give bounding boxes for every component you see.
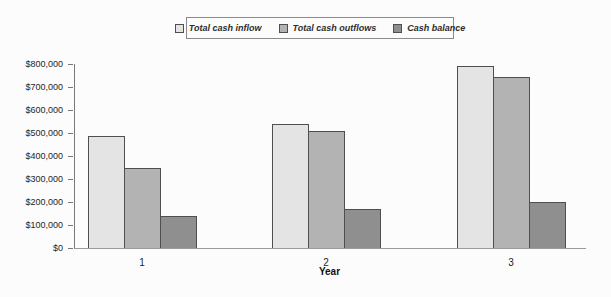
y-tick-mark (68, 225, 73, 226)
legend-item-total-cash-inflow: Total cash inflow (175, 23, 262, 33)
bar-cash-balance-year-3 (529, 202, 566, 248)
y-tick-label: $800,000 (25, 59, 63, 69)
bar-total-cash-inflow-year-1 (88, 136, 125, 248)
y-tick-label: $200,000 (25, 197, 63, 207)
y-tick-label: $0 (53, 243, 63, 253)
y-tick-label: $400,000 (25, 151, 63, 161)
y-tick-mark (68, 87, 73, 88)
legend-swatch-total-cash-inflow (175, 24, 184, 33)
bar-group-year-1: 1 (88, 136, 196, 248)
bar-total-cash-outflows-year-2 (308, 131, 345, 248)
legend-item-total-cash-outflows: Total cash outflows (279, 23, 377, 33)
plot-area: 123 (74, 64, 586, 249)
y-axis: $0$100,000$200,000$300,000$400,000$500,0… (0, 64, 74, 248)
bar-group-year-2: 2 (272, 124, 380, 248)
legend-label: Total cash outflows (293, 23, 377, 33)
y-tick-label: $300,000 (25, 174, 63, 184)
bar-group-year-3: 3 (457, 66, 565, 248)
y-tick-mark (68, 156, 73, 157)
y-tick-label: $500,000 (25, 128, 63, 138)
bar-total-cash-inflow-year-2 (272, 124, 309, 248)
y-tick-mark (68, 248, 73, 249)
legend-swatch-total-cash-outflows (279, 24, 288, 33)
bar-cash-balance-year-1 (160, 216, 197, 248)
legend-item-cash-balance: Cash balance (393, 23, 465, 33)
y-tick-mark (68, 133, 73, 134)
legend-label: Cash balance (407, 23, 465, 33)
legend-swatch-cash-balance (393, 24, 402, 33)
y-tick-mark (68, 202, 73, 203)
y-tick-mark (68, 179, 73, 180)
y-tick-label: $600,000 (25, 105, 63, 115)
bar-total-cash-outflows-year-3 (493, 77, 530, 248)
chart-page: Total cash inflowTotal cash outflowsCash… (0, 0, 611, 297)
legend-label: Total cash inflow (189, 23, 262, 33)
y-tick-label: $700,000 (25, 82, 63, 92)
y-tick-mark (68, 110, 73, 111)
x-axis-title: Year (74, 266, 585, 277)
y-tick-label: $100,000 (25, 220, 63, 230)
bar-total-cash-outflows-year-1 (124, 168, 161, 249)
bar-cash-balance-year-2 (344, 209, 381, 248)
legend: Total cash inflowTotal cash outflowsCash… (186, 17, 454, 39)
bar-total-cash-inflow-year-3 (457, 66, 494, 248)
y-tick-mark (68, 64, 73, 65)
